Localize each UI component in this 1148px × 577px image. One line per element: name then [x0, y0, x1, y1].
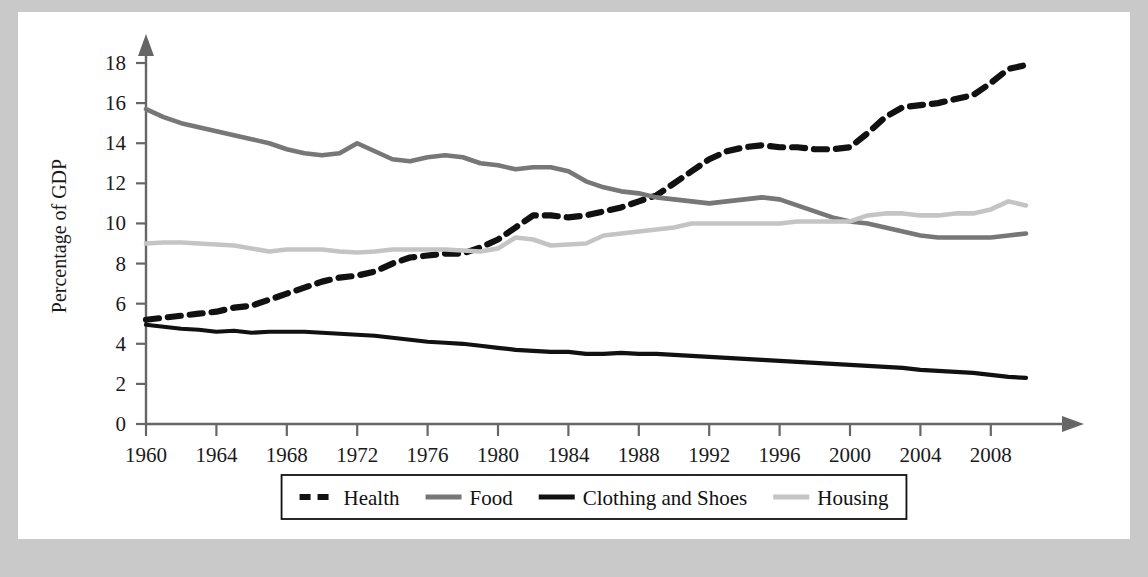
x-tick-label: 1996: [759, 443, 801, 467]
legend-label: Housing: [817, 486, 889, 510]
x-tick-label: 1964: [195, 443, 238, 467]
legend-label: Health: [344, 486, 400, 510]
x-tick-label: 1960: [125, 443, 167, 467]
x-tick-label: 2008: [970, 443, 1012, 467]
page-root: 024681012141618 196019641968197219761980…: [0, 0, 1148, 577]
x-tick-label: 1976: [407, 443, 449, 467]
y-tick-label: 2: [116, 372, 127, 396]
y-tick-label: 8: [116, 252, 127, 276]
y-tick-label: 12: [105, 171, 126, 195]
x-tick-label: 1980: [477, 443, 519, 467]
x-tick-label: 1972: [336, 443, 378, 467]
line-chart: 024681012141618 196019641968197219761980…: [18, 12, 1130, 539]
y-tick-label: 6: [116, 292, 127, 316]
legend-label: Clothing and Shoes: [583, 486, 748, 510]
x-tick-label: 1968: [266, 443, 308, 467]
x-tick-label: 2000: [829, 443, 871, 467]
y-axis-label: Percentage of GDP: [48, 159, 71, 313]
chart-panel: 024681012141618 196019641968197219761980…: [18, 12, 1130, 539]
y-tick-label: 0: [116, 412, 127, 436]
x-tick-label: 1984: [547, 443, 590, 467]
y-tick-label: 14: [105, 131, 127, 155]
x-tick-label: 2004: [899, 443, 942, 467]
x-tick-label: 1992: [688, 443, 730, 467]
y-tick-label: 10: [105, 211, 126, 235]
y-tick-label: 16: [105, 91, 126, 115]
y-tick-label: 4: [116, 332, 127, 356]
x-tick-label: 1988: [618, 443, 660, 467]
legend[interactable]: HealthFoodClothing and ShoesHousing: [282, 475, 907, 519]
legend-label: Food: [470, 486, 514, 510]
y-tick-label: 18: [105, 51, 126, 75]
